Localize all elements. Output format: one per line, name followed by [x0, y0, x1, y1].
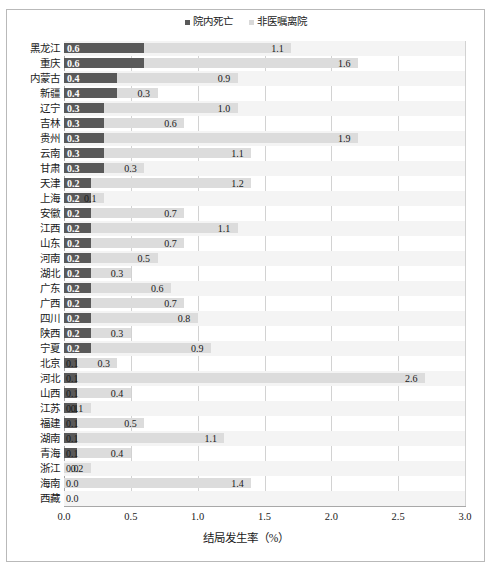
chart-row: 西藏0.0	[64, 491, 465, 506]
value-label-in-hospital-death: 0.1	[66, 431, 79, 446]
value-label-discharge-against-advice: 0.3	[138, 86, 151, 101]
value-label-in-hospital-death: 0.2	[67, 311, 80, 326]
category-label-天津: 天津	[40, 176, 60, 191]
value-label-discharge-against-advice: 1.1	[231, 146, 244, 161]
value-label-discharge-against-advice: 0.4	[111, 386, 124, 401]
category-label-西藏: 西藏	[40, 491, 60, 506]
value-label-discharge-against-advice: 0.9	[191, 341, 204, 356]
value-label-discharge-against-advice: 0.6	[164, 116, 177, 131]
value-label-in-hospital-death: 0.2	[67, 176, 80, 191]
bar-segment-discharge-against-advice	[91, 223, 238, 233]
category-label-福建: 福建	[40, 416, 60, 431]
category-label-江苏: 江苏	[40, 401, 60, 416]
category-label-湖南: 湖南	[40, 431, 60, 446]
row-band	[64, 461, 465, 476]
value-label-discharge-against-advice: 0.3	[111, 266, 124, 281]
value-label-discharge-against-advice: 0.1	[71, 401, 84, 416]
value-label-discharge-against-advice: 0.3	[111, 326, 124, 341]
chart-row: 广东0.20.6	[64, 281, 465, 296]
row-band	[64, 491, 465, 506]
value-label-in-hospital-death: 0.1	[66, 356, 79, 371]
value-label-in-hospital-death: 0.4	[67, 86, 80, 101]
category-label-山东: 山东	[40, 236, 60, 251]
value-label-discharge-against-advice: 1.4	[231, 476, 244, 491]
value-label-in-hospital-death: 0.1	[66, 371, 79, 386]
chart-row: 重庆0.61.6	[64, 56, 465, 71]
chart-row: 北京0.10.3	[64, 356, 465, 371]
legend-item-in-hospital-death: 院内死亡	[185, 17, 233, 28]
value-label-in-hospital-death: 0.3	[67, 131, 80, 146]
category-label-河南: 河南	[40, 251, 60, 266]
category-label-贵州: 贵州	[40, 131, 60, 146]
chart-row: 广西0.20.7	[64, 296, 465, 311]
category-label-北京: 北京	[40, 356, 60, 371]
value-label-discharge-against-advice: 0.6	[151, 281, 164, 296]
value-label-in-hospital-death: 0.3	[67, 161, 80, 176]
category-label-广东: 广东	[40, 281, 60, 296]
chart-row: 甘肃0.30.3	[64, 161, 465, 176]
chart-row: 青海0.10.4	[64, 446, 465, 461]
x-axis-line	[64, 506, 466, 507]
value-label-discharge-against-advice: 0.7	[164, 296, 177, 311]
legend-item-discharge-against-advice: 非医嘱离院	[249, 17, 307, 28]
value-label-in-hospital-death: 0.2	[67, 266, 80, 281]
chart-row: 宁夏0.20.9	[64, 341, 465, 356]
bar-segment-discharge-against-advice	[64, 478, 251, 488]
x-tick-label-1.5: 1.5	[258, 510, 271, 524]
value-label-discharge-against-advice: 1.6	[338, 56, 351, 71]
value-label-in-hospital-death: 0.0	[66, 476, 79, 491]
category-label-云南: 云南	[40, 146, 60, 161]
bar-segment-discharge-against-advice	[77, 433, 224, 443]
category-label-广西: 广西	[40, 296, 60, 311]
value-label-in-hospital-death: 0.2	[67, 296, 80, 311]
value-label-discharge-against-advice: 0.4	[111, 446, 124, 461]
bar-segment-discharge-against-advice	[91, 178, 251, 188]
chart-row: 内蒙古0.40.9	[64, 71, 465, 86]
value-label-in-hospital-death: 0.6	[67, 56, 80, 71]
chart-row: 江苏0.10.1	[64, 401, 465, 416]
bar-segment-discharge-against-advice	[144, 43, 291, 53]
legend-label-in-hospital-death: 院内死亡	[193, 17, 233, 28]
value-label-discharge-against-advice: 0.3	[97, 356, 110, 371]
category-label-青海: 青海	[40, 446, 60, 461]
chart-row: 吉林0.30.6	[64, 116, 465, 131]
value-label-discharge-against-advice: 1.9	[338, 131, 351, 146]
legend-swatch-icon-discharge-against-advice	[249, 20, 254, 25]
value-label-in-hospital-death: 0.2	[67, 341, 80, 356]
x-tick-label-3.0: 3.0	[458, 510, 471, 524]
chart-row: 天津0.21.2	[64, 176, 465, 191]
chart-row: 贵州0.31.9	[64, 131, 465, 146]
value-label-in-hospital-death: 0.3	[67, 116, 80, 131]
plot-area: 黑龙江0.61.1重庆0.61.6内蒙古0.40.9新疆0.40.3辽宁0.31…	[64, 41, 465, 506]
value-label-discharge-against-advice: 0.7	[164, 236, 177, 251]
chart-row: 山东0.20.7	[64, 236, 465, 251]
value-label-discharge-against-advice: 0.1	[84, 191, 97, 206]
value-label-in-hospital-death: 0.2	[67, 251, 80, 266]
category-label-宁夏: 宁夏	[40, 341, 60, 356]
value-label-discharge-against-advice: 0.9	[218, 71, 231, 86]
category-label-吉林: 吉林	[40, 116, 60, 131]
value-label-in-hospital-death: 0.2	[67, 191, 80, 206]
value-label-in-hospital-death: 0.1	[66, 386, 79, 401]
category-label-内蒙古: 内蒙古	[30, 71, 60, 86]
value-label-discharge-against-advice: 2.6	[405, 371, 418, 386]
legend-swatch-icon-in-hospital-death	[185, 20, 190, 25]
row-band	[64, 401, 465, 416]
chart-row: 安徽0.20.7	[64, 206, 465, 221]
value-label-in-hospital-death: 0.2	[67, 326, 80, 341]
gridline-3.0	[465, 41, 466, 506]
value-label-in-hospital-death: 0.1	[66, 446, 79, 461]
chart-legend: 院内死亡 非医嘱离院	[0, 14, 492, 30]
chart-row: 四川0.20.8	[64, 311, 465, 326]
value-label-in-hospital-death: 0.2	[67, 281, 80, 296]
value-label-discharge-against-advice: 1.2	[231, 176, 244, 191]
category-label-辽宁: 辽宁	[40, 101, 60, 116]
chart-row: 浙江0.00.2	[64, 461, 465, 476]
category-label-四川: 四川	[40, 311, 60, 326]
category-label-海南: 海南	[40, 476, 60, 491]
category-label-河北: 河北	[40, 371, 60, 386]
value-label-discharge-against-advice: 0.5	[124, 416, 137, 431]
category-label-浙江: 浙江	[40, 461, 60, 476]
value-label-discharge-against-advice: 0.7	[164, 206, 177, 221]
value-label-in-hospital-death: 0.2	[67, 236, 80, 251]
